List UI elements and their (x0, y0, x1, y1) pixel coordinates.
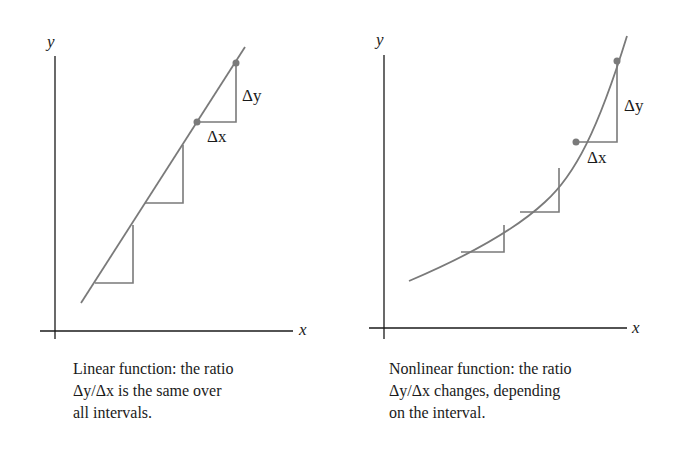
linear-caption-line-2: Δy/Δx is the same over (73, 380, 233, 402)
linear-panel: y x Δy Δx (40, 32, 307, 339)
nonlinear-point-1 (573, 139, 580, 146)
nonlinear-point-2 (614, 58, 621, 65)
linear-x-axis-label: x (298, 320, 307, 339)
nonlinear-caption-line-1: Nonlinear function: the ratio (389, 358, 572, 380)
nonlinear-x-axis-label: x (631, 318, 640, 337)
linear-delta-y-label: Δy (242, 86, 262, 105)
linear-slope-triangle-1 (95, 225, 133, 283)
nonlinear-delta-x-label: Δx (587, 148, 607, 167)
linear-point-2 (233, 60, 240, 67)
nonlinear-delta-y-label: Δy (624, 96, 644, 115)
linear-caption-line-1: Linear function: the ratio (73, 358, 233, 380)
nonlinear-caption-line-3: on the interval. (389, 402, 572, 424)
nonlinear-caption: Nonlinear function: the ratio Δy/Δx chan… (389, 358, 572, 424)
nonlinear-y-axis-label: y (374, 30, 384, 49)
nonlinear-slope-triangle-2 (520, 168, 559, 212)
nonlinear-panel: y x Δy Δx (369, 30, 644, 339)
linear-function-line (81, 47, 245, 303)
nonlinear-slope-triangle-3 (576, 61, 617, 142)
nonlinear-caption-line-2: Δy/Δx changes, depending (389, 380, 572, 402)
linear-caption: Linear function: the ratio Δy/Δx is the … (73, 358, 233, 424)
linear-delta-x-label: Δx (207, 127, 227, 146)
linear-caption-line-3: all intervals. (73, 402, 233, 424)
linear-y-axis-label: y (45, 32, 55, 51)
nonlinear-slope-triangle-1 (461, 225, 504, 252)
linear-point-1 (194, 119, 201, 126)
